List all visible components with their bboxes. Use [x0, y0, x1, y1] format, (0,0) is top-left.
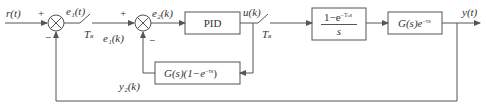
sum2-plus: + — [120, 7, 126, 19]
uk-label: u(k) — [243, 6, 261, 19]
output-label: y(t) — [461, 6, 478, 19]
summing-junction-1 — [48, 15, 64, 31]
zoh-denominator: s — [337, 25, 341, 37]
y2k-label: y₂(k) — [118, 80, 140, 93]
block-diagram: r(t) + − e₁(t) Tₛ + − e₁(k) e₂(k) PID u(… — [0, 0, 486, 111]
inner-branch-line — [240, 23, 253, 73]
pid-label: PID — [204, 17, 222, 29]
input-label: r(t) — [6, 7, 21, 20]
sampler-1-label: Tₛ — [84, 28, 94, 40]
summing-junction-2 — [135, 15, 151, 31]
sum1-minus: − — [45, 31, 51, 43]
e2k-label: e₂(k) — [152, 7, 173, 20]
sum2-minus: − — [149, 34, 155, 46]
plant-label: G(s)e−τs — [398, 17, 431, 30]
zoh-numerator: 1−e−Tₛs — [324, 11, 353, 23]
sum1-plus: + — [38, 7, 44, 19]
e1t-label: e₁(t) — [66, 5, 85, 18]
sampler-2-label: Tₛ — [262, 28, 272, 40]
e1k-label: e₁(k) — [103, 32, 124, 45]
smith-label: G(s)(1−e−τs) — [164, 67, 217, 80]
